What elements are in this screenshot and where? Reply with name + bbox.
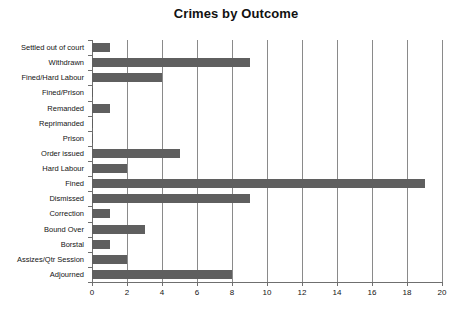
x-tick-2: [127, 282, 128, 286]
bar-row: [92, 40, 442, 55]
y-axis-label-hard-labour: Hard Labour: [42, 164, 84, 173]
x-tick-20: [442, 282, 443, 286]
x-axis-label-14: 14: [322, 288, 352, 297]
bars-layer: [92, 40, 442, 282]
y-axis-label-fined-hard-labour: Fined/Hard Labour: [21, 73, 84, 82]
bar-row: [92, 85, 442, 100]
x-tick-6: [197, 282, 198, 286]
x-axis-label-8: 8: [217, 288, 247, 297]
x-axis-label-0: 0: [77, 288, 107, 297]
y-tick: [88, 206, 92, 207]
y-tick: [88, 116, 92, 117]
y-axis-category-labels: Settled out of courtWithdrawnFined/Hard …: [0, 40, 88, 282]
x-tick-12: [302, 282, 303, 286]
y-axis-label-assizes-qtr-session: Assizes/Qtr Session: [17, 255, 84, 264]
y-axis-label-settled-out-of-court: Settled out of court: [21, 43, 84, 52]
y-tick: [88, 176, 92, 177]
bar-row: [92, 267, 442, 282]
y-tick: [88, 252, 92, 253]
y-axis-label-fined-prison: Fined/Prison: [42, 88, 84, 97]
y-tick: [88, 146, 92, 147]
bar-row: [92, 131, 442, 146]
bar-row: [92, 191, 442, 206]
bar: [92, 209, 110, 218]
x-axis-label-18: 18: [392, 288, 422, 297]
y-axis-label-prison: Prison: [63, 134, 84, 143]
y-axis-label-correction: Correction: [49, 209, 84, 218]
y-axis-label-fined: Fined: [65, 179, 84, 188]
y-tick: [88, 161, 92, 162]
bar: [92, 119, 93, 128]
bar: [92, 179, 425, 188]
y-axis-label-order-issued: Order issued: [41, 149, 84, 158]
bar: [92, 270, 232, 279]
y-tick: [88, 237, 92, 238]
x-tick-16: [372, 282, 373, 286]
y-axis-label-bound-over: Bound Over: [44, 225, 84, 234]
x-tick-10: [267, 282, 268, 286]
x-tick-18: [407, 282, 408, 286]
y-tick: [88, 222, 92, 223]
y-tick: [88, 267, 92, 268]
x-axis-label-16: 16: [357, 288, 387, 297]
x-axis-label-10: 10: [252, 288, 282, 297]
bar: [92, 73, 162, 82]
y-axis-label-remanded: Remanded: [47, 104, 84, 113]
gridline-20: [442, 40, 443, 282]
x-axis-label-2: 2: [112, 288, 142, 297]
bar-row: [92, 116, 442, 131]
bar-row: [92, 70, 442, 85]
bar-row: [92, 146, 442, 161]
y-tick: [88, 191, 92, 192]
y-axis-label-borstal: Borstal: [61, 240, 84, 249]
y-tick: [88, 40, 92, 41]
bar: [92, 58, 250, 67]
bar: [92, 88, 93, 97]
bar: [92, 149, 180, 158]
bar: [92, 43, 110, 52]
x-tick-8: [232, 282, 233, 286]
y-axis-label-dismissed: Dismissed: [49, 194, 84, 203]
bar-row: [92, 222, 442, 237]
bar-row: [92, 176, 442, 191]
bar-row: [92, 237, 442, 252]
x-axis-label-6: 6: [182, 288, 212, 297]
bar-row: [92, 252, 442, 267]
y-axis-label-reprimanded: Reprimanded: [39, 119, 84, 128]
chart-title: Crimes by Outcome: [0, 6, 472, 21]
x-axis-label-4: 4: [147, 288, 177, 297]
bar: [92, 164, 127, 173]
bar: [92, 104, 110, 113]
bar-row: [92, 101, 442, 116]
bar: [92, 194, 250, 203]
y-tick: [88, 131, 92, 132]
y-axis-label-withdrawn: Withdrawn: [49, 58, 84, 67]
bar-row: [92, 206, 442, 221]
bar-chart: Crimes by Outcome Settled out of courtWi…: [0, 0, 472, 317]
y-tick: [88, 70, 92, 71]
y-tick: [88, 55, 92, 56]
bar: [92, 134, 93, 143]
x-axis-label-12: 12: [287, 288, 317, 297]
bar: [92, 225, 145, 234]
bar: [92, 255, 127, 264]
bar-row: [92, 161, 442, 176]
x-tick-14: [337, 282, 338, 286]
y-axis-label-adjourned: Adjourned: [50, 270, 84, 279]
bar: [92, 240, 110, 249]
y-tick: [88, 85, 92, 86]
bar-row: [92, 55, 442, 70]
plot-area: [92, 40, 442, 282]
x-axis-label-20: 20: [427, 288, 457, 297]
y-tick: [88, 101, 92, 102]
x-tick-4: [162, 282, 163, 286]
x-tick-0: [92, 282, 93, 286]
